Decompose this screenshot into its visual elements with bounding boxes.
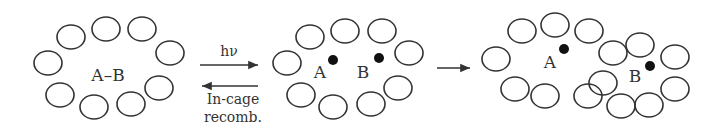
solvent-cage-2 [273, 19, 423, 119]
recomb-label: recomb. [204, 109, 262, 125]
escaped-a-label: A [543, 52, 557, 72]
in-cage-label: In-cage [207, 91, 260, 107]
radical-dot-a [328, 55, 338, 65]
radical-dot-b [374, 53, 384, 63]
escaped-dot-a [559, 44, 569, 54]
escaped-b-label: B [629, 66, 642, 86]
molecule-ab-label: A–B [90, 65, 124, 85]
radical-b-label: B [357, 62, 370, 82]
escaped-dot-b [645, 61, 655, 71]
radical-a-label: A [313, 62, 327, 82]
hv-label: hν [220, 43, 238, 59]
cage-effect-diagram: A–B hν In-cage recomb. A B A B [0, 0, 718, 138]
solvent-cage-3 [482, 13, 689, 118]
